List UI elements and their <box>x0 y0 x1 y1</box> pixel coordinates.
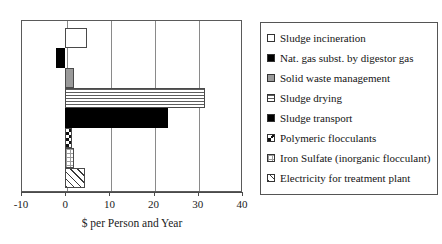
legend-swatch-icon-4 <box>267 114 275 122</box>
x-tick-label-5: 40 <box>222 198 262 211</box>
bars-layer <box>21 20 242 192</box>
legend-swatch-icon-1 <box>267 54 275 62</box>
bar-3 <box>65 88 205 108</box>
bar-6 <box>65 148 74 168</box>
x-tick-label-3: 20 <box>134 198 174 211</box>
x-tick-label-1: 0 <box>45 198 85 211</box>
legend-label-1: Nat. gas subst. by digestor gas <box>280 52 414 64</box>
legend-item-5[interactable]: Polymeric flocculants <box>267 128 437 148</box>
legend-label-6: Iron Sulfate (inorganic flocculant) <box>280 152 430 164</box>
legend-swatch-icon-7 <box>267 174 275 182</box>
legend-label-4: Sludge transport <box>280 112 352 124</box>
legend-label-5: Polymeric flocculants <box>280 132 376 144</box>
bar-2 <box>65 68 74 88</box>
legend-swatch-icon-2 <box>267 74 275 82</box>
x-tick-5 <box>242 192 243 196</box>
x-tick-2 <box>109 192 110 196</box>
x-tick-label-0: -10 <box>1 198 41 211</box>
legend-swatch-icon-6 <box>267 154 275 162</box>
legend-swatch-icon-5 <box>267 134 275 142</box>
legend-item-3[interactable]: Sludge drying <box>267 88 437 108</box>
legend-item-1[interactable]: Nat. gas subst. by digestor gas <box>267 48 437 68</box>
legend-label-7: Electricity for treatment plant <box>280 172 410 184</box>
legend-swatch-icon-0 <box>267 34 275 42</box>
x-tick-label-4: 30 <box>178 198 218 211</box>
legend-item-7[interactable]: Electricity for treatment plant <box>267 168 437 188</box>
legend-item-0[interactable]: Sludge incineration <box>267 28 437 48</box>
legend-label-2: Solid waste management <box>280 72 390 84</box>
x-tick-4 <box>198 192 199 196</box>
legend-label-0: Sludge incineration <box>280 32 366 44</box>
legend-item-4[interactable]: Sludge transport <box>267 108 437 128</box>
bar-0 <box>65 28 87 48</box>
x-tick-1 <box>65 192 66 196</box>
x-axis-title: $ per Person and Year <box>21 217 243 229</box>
legend-item-2[interactable]: Solid waste management <box>267 68 437 88</box>
bar-5 <box>65 128 72 148</box>
x-tick-label-2: 10 <box>89 198 129 211</box>
bar-chart: -10010203040 $ per Person and Year <box>0 0 252 244</box>
legend-label-3: Sludge drying <box>280 92 342 104</box>
bar-7 <box>65 168 85 188</box>
legend-swatch-icon-3 <box>267 94 275 102</box>
legend-item-6[interactable]: Iron Sulfate (inorganic flocculant) <box>267 148 437 168</box>
x-tick-3 <box>154 192 155 196</box>
bar-1 <box>56 48 65 68</box>
x-axis-line <box>21 192 243 193</box>
x-tick-0 <box>21 192 22 196</box>
chart-legend: Sludge incinerationNat. gas subst. by di… <box>260 22 438 195</box>
bar-4 <box>65 108 168 128</box>
